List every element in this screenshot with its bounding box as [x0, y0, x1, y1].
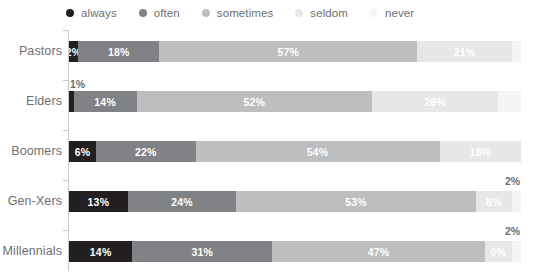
bar-segment-often[interactable]: 24% — [128, 191, 236, 212]
bar-segment-often[interactable]: 22% — [96, 141, 195, 162]
legend-item-label: often — [154, 7, 180, 19]
bar-segment-often[interactable]: 18% — [78, 41, 159, 62]
bar-segment-never[interactable] — [512, 241, 521, 262]
segment-value-label: 54% — [307, 146, 329, 158]
segment-callout-label: 2% — [505, 175, 520, 187]
legend-item-always[interactable]: always — [66, 7, 117, 19]
segment-value-label: 31% — [192, 246, 214, 258]
bar-segment-sometimes[interactable]: 54% — [196, 141, 440, 162]
y-axis-tick — [63, 130, 68, 131]
segment-value-label: 52% — [243, 96, 265, 108]
stacked-bar: 14%52%28% — [69, 91, 521, 112]
bar-segment-seldom[interactable]: 28% — [372, 91, 499, 112]
bar-segment-seldom[interactable]: 18% — [440, 141, 521, 162]
category-label-boomers: Boomers — [0, 126, 62, 176]
segment-value-label: 57% — [277, 46, 299, 58]
y-axis-tick — [63, 180, 68, 181]
bar-segment-always[interactable]: 2% — [69, 41, 78, 62]
y-axis-tick — [63, 230, 68, 231]
bar-segment-sometimes[interactable]: 52% — [137, 91, 372, 112]
segment-value-label: 21% — [454, 46, 476, 58]
legend-item-sometimes[interactable]: sometimes — [202, 7, 274, 19]
bar-segment-never[interactable] — [512, 191, 521, 212]
bar-segment-never[interactable] — [498, 91, 521, 112]
chart-legend: alwaysoftensometimesseldomnever — [0, 0, 541, 26]
segment-value-label: 24% — [171, 196, 193, 208]
bar-segment-often[interactable]: 31% — [132, 241, 272, 262]
chart-row: Elders14%52%28%1% — [0, 76, 541, 126]
category-label-elders: Elders — [0, 76, 62, 126]
bar-segment-often[interactable]: 14% — [74, 91, 137, 112]
stacked-bar: 2%18%57%21% — [69, 41, 521, 62]
category-label-pastors: Pastors — [0, 26, 62, 76]
legend-item-label: sometimes — [217, 7, 274, 19]
segment-value-label: 47% — [368, 246, 390, 258]
legend-swatch-icon — [139, 9, 147, 17]
segment-value-label: 8% — [486, 196, 502, 208]
y-axis-tick — [63, 80, 68, 81]
legend-item-often[interactable]: often — [139, 7, 180, 19]
legend-item-label: seldom — [310, 7, 348, 19]
legend-swatch-icon — [295, 9, 303, 17]
bar-segment-always[interactable]: 6% — [69, 141, 96, 162]
segment-callout-label: 2% — [505, 225, 520, 237]
legend-swatch-icon — [202, 9, 210, 17]
segment-value-label: 18% — [108, 46, 130, 58]
stacked-bar: 14%31%47%6% — [69, 241, 521, 262]
chart-plot-area: Pastors2%18%57%21%Elders14%52%28%1%Boome… — [0, 26, 541, 275]
segment-value-label: 2% — [69, 46, 78, 58]
legend-item-never[interactable]: never — [370, 7, 414, 19]
legend-swatch-icon — [66, 9, 74, 17]
segment-value-label: 22% — [135, 146, 157, 158]
bar-segment-always[interactable]: 14% — [69, 241, 132, 262]
chart-row: Pastors2%18%57%21% — [0, 26, 541, 76]
legend-item-label: always — [81, 7, 117, 19]
stacked-bar: 13%24%53%8% — [69, 191, 521, 212]
category-label-millennials: Millennials — [0, 226, 62, 275]
y-axis-tick — [63, 30, 68, 31]
chart-row: Boomers6%22%54%18% — [0, 126, 541, 176]
segment-value-label: 13% — [88, 196, 110, 208]
category-label-gen-xers: Gen-Xers — [0, 176, 62, 226]
bar-segment-seldom[interactable]: 8% — [476, 191, 512, 212]
legend-item-seldom[interactable]: seldom — [295, 7, 348, 19]
bar-segment-seldom[interactable]: 21% — [417, 41, 512, 62]
segment-value-label: 6% — [491, 246, 507, 258]
bar-segment-never[interactable] — [512, 41, 521, 62]
segment-value-label: 18% — [469, 146, 491, 158]
bar-segment-sometimes[interactable]: 57% — [159, 41, 417, 62]
chart-row: Gen-Xers13%24%53%8%2% — [0, 176, 541, 226]
bar-segment-sometimes[interactable]: 53% — [236, 191, 476, 212]
legend-item-label: never — [385, 7, 414, 19]
legend-swatch-icon — [370, 9, 378, 17]
segment-value-label: 6% — [75, 146, 91, 158]
segment-value-label: 28% — [424, 96, 446, 108]
segment-value-label: 14% — [94, 96, 116, 108]
chart-row: Millennials14%31%47%6%2% — [0, 226, 541, 275]
bar-segment-always[interactable]: 13% — [69, 191, 128, 212]
bar-segment-seldom[interactable]: 6% — [485, 241, 512, 262]
segment-value-label: 53% — [345, 196, 367, 208]
bar-segment-sometimes[interactable]: 47% — [272, 241, 484, 262]
segment-callout-label: 1% — [70, 78, 85, 90]
segment-value-label: 14% — [90, 246, 112, 258]
stacked-bar: 6%22%54%18% — [69, 141, 521, 162]
